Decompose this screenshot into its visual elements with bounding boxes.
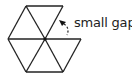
diagonal-top-left xyxy=(26,6,45,39)
center-dot xyxy=(43,37,46,40)
gap-annotation-label: small gap xyxy=(74,15,132,30)
diagonal-bottom-right xyxy=(45,39,63,72)
hexagon-diagram xyxy=(0,0,132,77)
gap-pointer-curve xyxy=(64,24,68,35)
hex-lower-left-edge xyxy=(8,39,26,72)
hex-upper-left-edge xyxy=(8,6,26,39)
hex-lower-right-edge xyxy=(63,39,81,72)
diagonal-bottom-left xyxy=(26,39,45,72)
